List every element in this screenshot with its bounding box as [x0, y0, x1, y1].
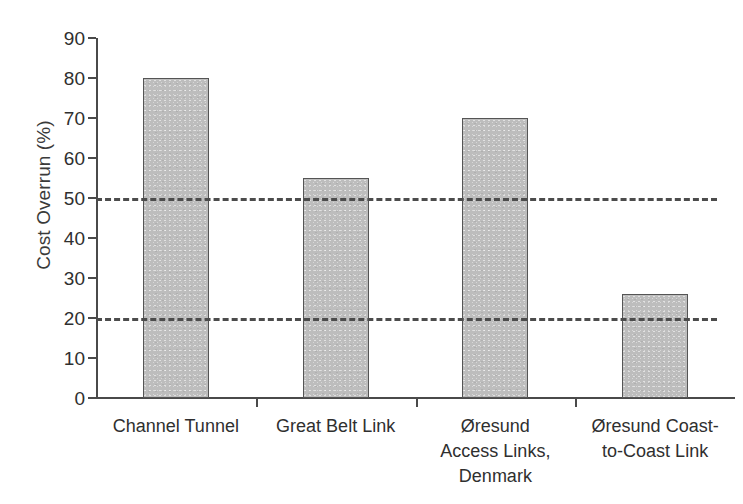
- x-tick-mark: [575, 398, 577, 407]
- bar: [143, 78, 209, 398]
- x-category-label: Øresund Coast-to-Coast Link: [575, 414, 735, 464]
- y-tick-label: 60: [64, 149, 85, 168]
- x-category-label: Channel Tunnel: [96, 414, 256, 439]
- x-category-label-line: Channel Tunnel: [96, 414, 256, 439]
- x-category-label-line: to-Coast Link: [575, 439, 735, 464]
- reference-line: [96, 198, 717, 201]
- cost-overrun-bar-chart: Cost Overrun (%) 0102030405060708090 Cha…: [0, 0, 743, 504]
- y-axis-line: [96, 38, 98, 398]
- y-tick-label: 50: [64, 189, 85, 208]
- y-tick-label: 70: [64, 109, 85, 128]
- y-axis-title: Cost Overrun (%): [33, 65, 55, 325]
- y-tick-mark: [88, 317, 96, 319]
- y-tick-mark: [88, 37, 96, 39]
- x-tick-mark: [416, 398, 418, 407]
- x-axis-labels: Channel TunnelGreat Belt LinkØresundAcce…: [96, 414, 735, 500]
- y-tick-label: 30: [64, 269, 85, 288]
- x-category-label-line: Denmark: [416, 464, 576, 489]
- x-category-label: ØresundAccess Links,Denmark: [416, 414, 576, 489]
- bar: [622, 294, 688, 398]
- x-category-label-line: Great Belt Link: [256, 414, 416, 439]
- y-tick-label: 90: [64, 29, 85, 48]
- y-tick-mark: [88, 77, 96, 79]
- y-tick-mark: [88, 157, 96, 159]
- reference-line: [96, 318, 717, 321]
- x-category-label-line: Access Links,: [416, 439, 576, 464]
- y-tick-label: 10: [64, 349, 85, 368]
- x-category-label-line: Øresund Coast-: [575, 414, 735, 439]
- y-tick-mark: [88, 237, 96, 239]
- x-category-label-line: Øresund: [416, 414, 576, 439]
- bar: [303, 178, 369, 398]
- y-tick-mark: [88, 117, 96, 119]
- x-tick-mark: [256, 398, 258, 407]
- plot-area: 0102030405060708090: [96, 38, 735, 398]
- y-tick-label: 20: [64, 309, 85, 328]
- y-tick-mark: [88, 397, 96, 399]
- y-tick-mark: [88, 357, 96, 359]
- y-tick-mark: [88, 277, 96, 279]
- bar: [462, 118, 528, 398]
- x-category-label: Great Belt Link: [256, 414, 416, 439]
- y-tick-label: 40: [64, 229, 85, 248]
- y-tick-label: 0: [74, 389, 85, 408]
- y-tick-mark: [88, 197, 96, 199]
- y-tick-label: 80: [64, 69, 85, 88]
